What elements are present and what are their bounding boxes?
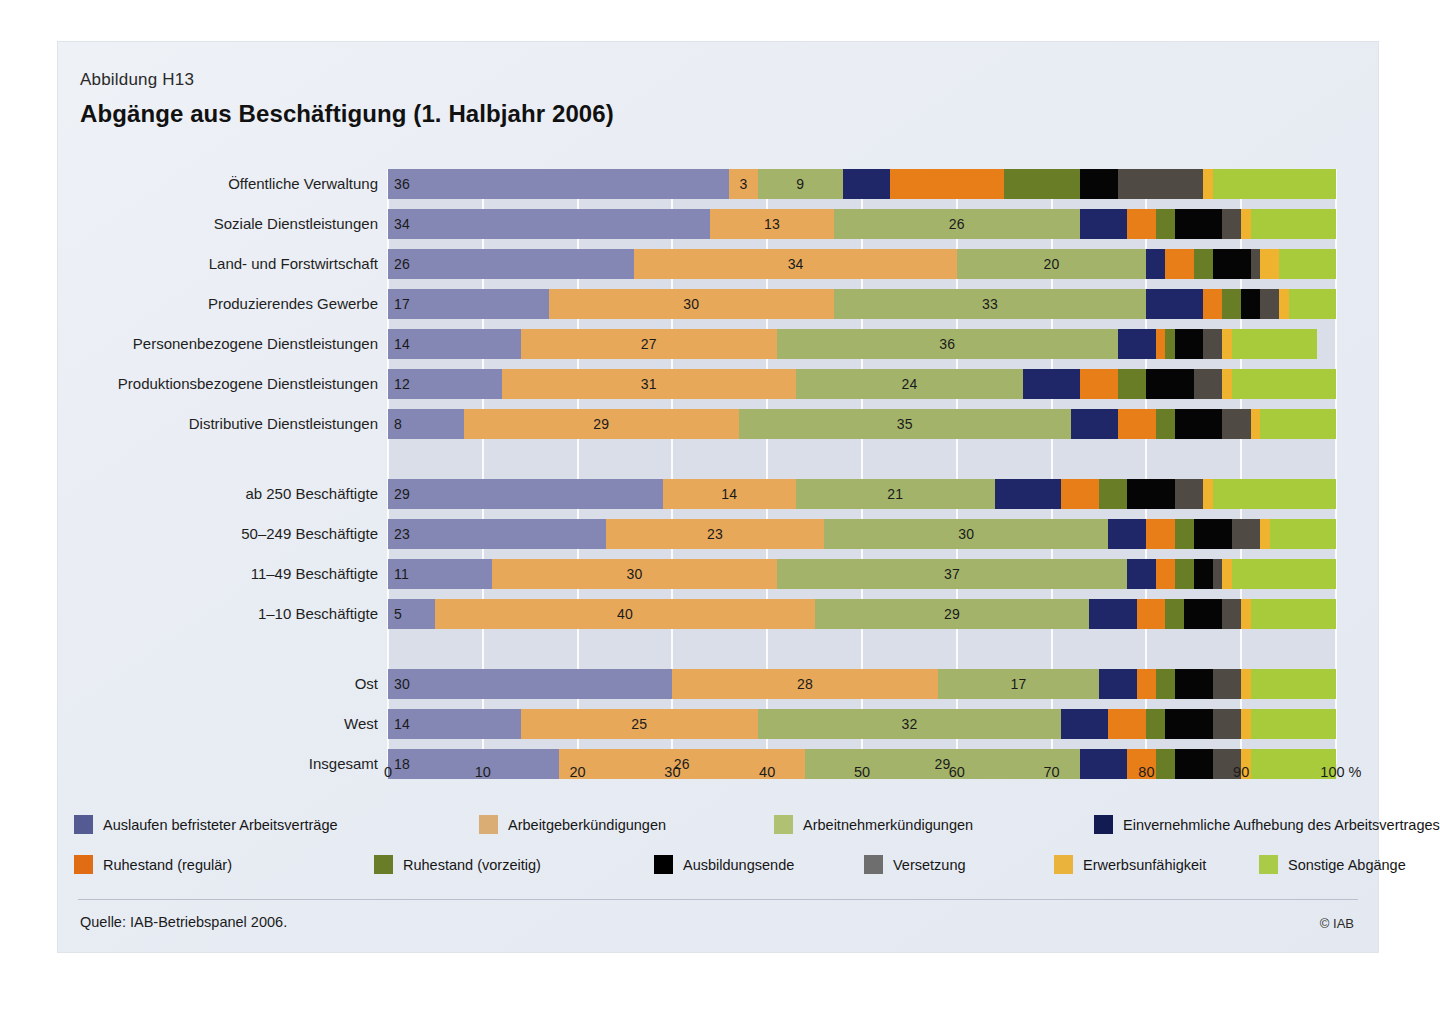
bar-segment[interactable] [1099, 479, 1127, 509]
legend-item[interactable]: Ruhestand (vorzeitig) [374, 855, 541, 874]
bar-segment[interactable] [1222, 289, 1241, 319]
bar-segment[interactable]: 34 [634, 249, 956, 279]
bar-segment[interactable]: 3 [729, 169, 757, 199]
bar-segment[interactable]: 29 [464, 409, 739, 439]
bar-segment[interactable] [1241, 209, 1250, 239]
bar-segment[interactable] [1175, 479, 1203, 509]
legend-item[interactable]: Einvernehmliche Aufhebung des Arbeitsver… [1094, 815, 1440, 834]
bar-segment[interactable]: 29 [388, 479, 663, 509]
bar-row[interactable]: 302817 [388, 669, 1336, 699]
bar-segment[interactable] [1232, 519, 1260, 549]
bar-segment[interactable]: 24 [796, 369, 1024, 399]
bar-segment[interactable] [1137, 669, 1156, 699]
bar-segment[interactable] [1241, 709, 1250, 739]
bar-segment[interactable] [1251, 409, 1260, 439]
bar-segment[interactable] [1251, 249, 1260, 279]
bar-segment[interactable] [1232, 329, 1317, 359]
bar-segment[interactable]: 25 [521, 709, 758, 739]
legend-item[interactable]: Versetzung [864, 855, 966, 874]
bar-segment[interactable] [1194, 519, 1232, 549]
bar-row[interactable]: 291421 [388, 479, 1336, 509]
bar-segment[interactable]: 17 [938, 669, 1099, 699]
bar-segment[interactable]: 26 [388, 249, 634, 279]
bar-segment[interactable] [1194, 559, 1213, 589]
bar-row[interactable]: 263420 [388, 249, 1336, 279]
bar-segment[interactable] [1279, 289, 1288, 319]
bar-segment[interactable]: 23 [606, 519, 824, 549]
bar-segment[interactable]: 36 [777, 329, 1118, 359]
bar-segment[interactable] [1165, 249, 1193, 279]
legend-item[interactable]: Auslaufen befristeter Arbeitsverträge [74, 815, 338, 834]
bar-segment[interactable]: 23 [388, 519, 606, 549]
bar-segment[interactable] [1099, 669, 1137, 699]
bar-segment[interactable] [1251, 709, 1336, 739]
bar-segment[interactable]: 36 [388, 169, 729, 199]
bar-segment[interactable]: 20 [957, 249, 1147, 279]
bar-segment[interactable]: 30 [388, 669, 672, 699]
bar-row[interactable]: 54029 [388, 599, 1336, 629]
bar-segment[interactable] [1289, 289, 1336, 319]
bar-segment[interactable]: 33 [834, 289, 1147, 319]
bar-segment[interactable] [1118, 369, 1146, 399]
bar-segment[interactable] [1146, 289, 1203, 319]
bar-segment[interactable] [1004, 169, 1080, 199]
bar-segment[interactable] [890, 169, 1004, 199]
bar-segment[interactable] [1118, 329, 1156, 359]
bar-segment[interactable] [1203, 289, 1222, 319]
bar-segment[interactable] [1080, 209, 1127, 239]
bar-segment[interactable] [1222, 599, 1241, 629]
bar-segment[interactable]: 34 [388, 209, 710, 239]
bar-segment[interactable] [1222, 369, 1231, 399]
bar-segment[interactable]: 40 [435, 599, 814, 629]
bar-segment[interactable] [1146, 519, 1174, 549]
bar-segment[interactable] [1213, 479, 1336, 509]
bar-segment[interactable] [1080, 369, 1118, 399]
bar-segment[interactable] [1061, 479, 1099, 509]
bar-segment[interactable]: 27 [521, 329, 777, 359]
legend-item[interactable]: Ausbildungsende [654, 855, 794, 874]
bar-segment[interactable] [1061, 709, 1108, 739]
bar-segment[interactable] [1222, 329, 1231, 359]
bar-segment[interactable]: 26 [834, 209, 1080, 239]
bar-segment[interactable] [1251, 669, 1336, 699]
bar-segment[interactable] [1165, 329, 1174, 359]
bar-segment[interactable] [1260, 249, 1279, 279]
bar-row[interactable]: 3639 [388, 169, 1336, 199]
bar-segment[interactable]: 29 [815, 599, 1090, 629]
bar-row[interactable]: 341326 [388, 209, 1336, 239]
bar-segment[interactable] [1023, 369, 1080, 399]
bar-segment[interactable] [1146, 249, 1165, 279]
bar-segment[interactable] [1118, 409, 1156, 439]
bar-segment[interactable] [1213, 669, 1241, 699]
bar-segment[interactable]: 14 [388, 709, 521, 739]
bar-segment[interactable] [1260, 289, 1279, 319]
bar-segment[interactable] [1184, 599, 1222, 629]
bar-row[interactable]: 232330 [388, 519, 1336, 549]
bar-segment[interactable] [1118, 169, 1203, 199]
bar-segment[interactable] [1089, 599, 1136, 629]
bar-segment[interactable] [1213, 249, 1251, 279]
bar-segment[interactable] [1222, 409, 1250, 439]
bar-segment[interactable]: 30 [549, 289, 833, 319]
bar-segment[interactable] [1213, 559, 1222, 589]
bar-segment[interactable] [1156, 329, 1165, 359]
bar-segment[interactable] [1213, 169, 1336, 199]
bar-row[interactable]: 82935 [388, 409, 1336, 439]
bar-row[interactable]: 123124 [388, 369, 1336, 399]
bar-segment[interactable] [1175, 209, 1222, 239]
bar-segment[interactable]: 35 [739, 409, 1071, 439]
bar-segment[interactable] [1175, 329, 1203, 359]
bar-segment[interactable]: 21 [796, 479, 995, 509]
bar-segment[interactable]: 30 [492, 559, 776, 589]
bar-segment[interactable] [1260, 519, 1269, 549]
bar-segment[interactable] [1080, 169, 1118, 199]
bar-segment[interactable] [1175, 669, 1213, 699]
bar-segment[interactable]: 37 [777, 559, 1128, 589]
bar-segment[interactable] [1279, 249, 1336, 279]
bar-segment[interactable] [1260, 409, 1336, 439]
bar-row[interactable]: 173033 [388, 289, 1336, 319]
bar-row[interactable]: 142736 [388, 329, 1336, 359]
legend-item[interactable]: Erwerbsunfähigkeit [1054, 855, 1206, 874]
bar-segment[interactable] [1241, 599, 1250, 629]
bar-segment[interactable] [1270, 519, 1336, 549]
